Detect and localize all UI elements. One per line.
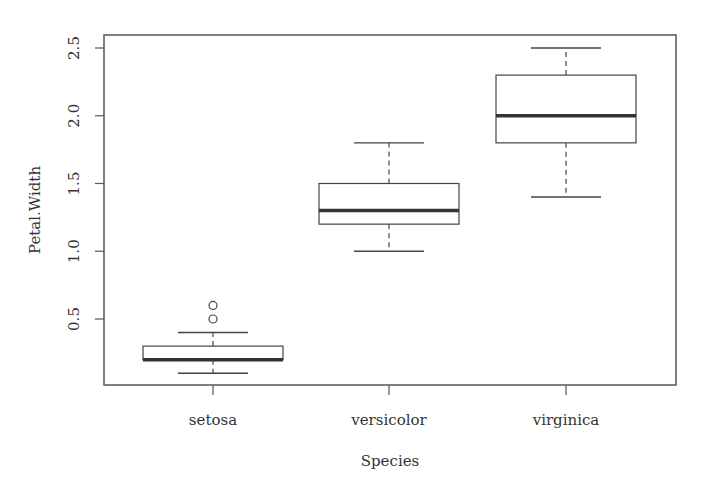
x-tick-label-virginica: virginica — [532, 411, 600, 429]
iqr-box — [319, 184, 459, 225]
outlier-point — [209, 301, 217, 309]
x-axis: setosaversicolorvirginica — [189, 385, 600, 429]
x-axis-title: Species — [361, 452, 420, 470]
x-tick-label-setosa: setosa — [189, 411, 237, 429]
iqr-box — [143, 346, 283, 360]
outlier-point — [209, 315, 217, 323]
box-setosa — [143, 301, 283, 373]
y-tick-label: 2.0 — [65, 104, 83, 128]
y-tick-label: 1.5 — [65, 172, 83, 196]
box-virginica — [496, 48, 636, 197]
y-tick-label: 2.5 — [65, 36, 83, 60]
y-axis: 0.51.01.52.02.5 — [65, 36, 104, 331]
iqr-box — [496, 75, 636, 143]
x-tick-label-versicolor: versicolor — [350, 411, 427, 429]
y-tick-label: 0.5 — [65, 307, 83, 331]
y-tick-label: 1.0 — [65, 239, 83, 263]
boxplot-chart: 0.51.01.52.02.5 setosaversicolorvirginic… — [0, 0, 702, 497]
box-versicolor — [319, 143, 459, 251]
boxes-group — [143, 48, 636, 373]
y-axis-title: Petal.Width — [26, 166, 44, 254]
